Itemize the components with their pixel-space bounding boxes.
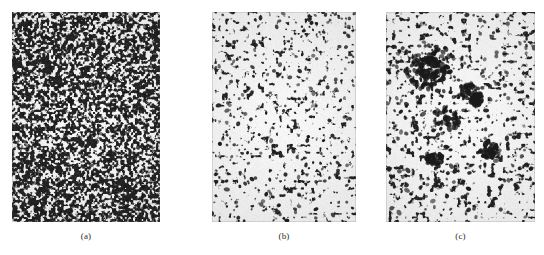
figure-root: (a) (b) (c): [0, 0, 544, 255]
panel-caption-c: (c): [386, 232, 535, 241]
panel-caption-a: (a): [12, 232, 160, 241]
panel-a-group: (a): [12, 12, 160, 246]
panel-caption-b: (b): [212, 232, 356, 241]
micrograph-image-c: [386, 12, 535, 222]
panel-c-group: (c): [386, 12, 535, 246]
micrograph-image-b: [212, 12, 356, 222]
panel-b-group: (b): [212, 12, 356, 246]
micrograph-image-a: [12, 12, 160, 222]
